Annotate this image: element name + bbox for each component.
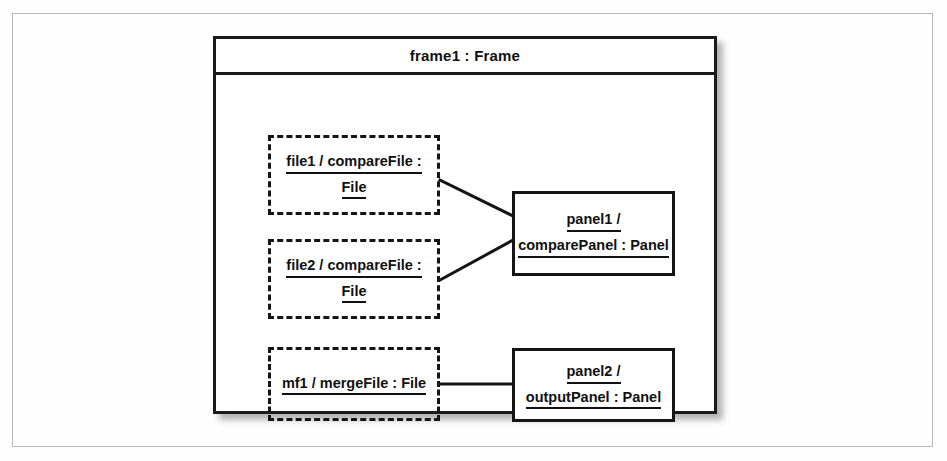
part-box-file1-line-2: File — [342, 177, 367, 200]
diagram-canvas: frame1 : Frame file1 / compareFile : Fil… — [0, 0, 947, 461]
part-box-file2-line-2: File — [342, 281, 367, 304]
object-box-panel1-label: panel1 / comparePanel : Panel — [512, 209, 675, 257]
frame-body: file1 / compareFile : File file2 / compa… — [216, 75, 714, 411]
part-box-file2-label: file2 / compareFile : File — [280, 255, 427, 303]
object-box-panel2[interactable]: panel2 / outputPanel : Panel — [512, 348, 675, 422]
part-box-file2[interactable]: file2 / compareFile : File — [268, 239, 440, 319]
part-box-mf1-label: mf1 / mergeFile : File — [276, 373, 432, 396]
part-box-file1-label: file1 / compareFile : File — [280, 151, 427, 199]
frame-object-box: frame1 : Frame file1 / compareFile : Fil… — [213, 36, 717, 414]
object-box-panel2-line-1: panel2 / — [567, 361, 621, 384]
part-box-mf1-line-1: mf1 / mergeFile : File — [282, 373, 426, 396]
part-box-file1-line-1: file1 / compareFile : — [286, 151, 421, 174]
object-box-panel1-line-1: panel1 / — [567, 209, 621, 232]
part-box-file1[interactable]: file1 / compareFile : File — [268, 135, 440, 215]
object-box-panel1-line-2: comparePanel : Panel — [518, 235, 669, 258]
object-box-panel2-label: panel2 / outputPanel : Panel — [520, 361, 667, 409]
frame-header: frame1 : Frame — [216, 39, 714, 75]
connector-file2-panel1 — [440, 239, 515, 280]
object-box-panel2-line-2: outputPanel : Panel — [526, 387, 661, 410]
part-box-file2-line-1: file2 / compareFile : — [286, 255, 421, 278]
object-box-panel1[interactable]: panel1 / comparePanel : Panel — [512, 191, 675, 276]
frame-title: frame1 : Frame — [410, 47, 520, 64]
part-box-mf1[interactable]: mf1 / mergeFile : File — [268, 347, 440, 421]
connector-file1-panel1 — [440, 180, 515, 217]
